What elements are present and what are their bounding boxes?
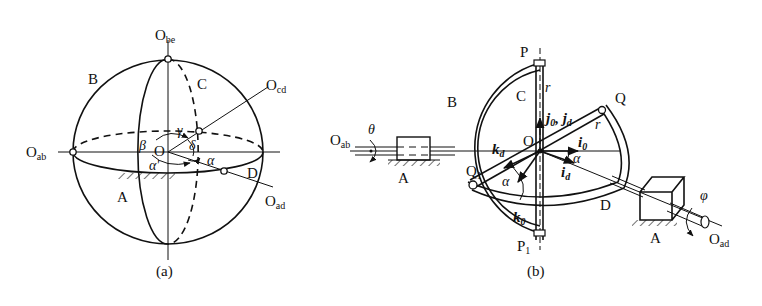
label-body-b-b: B — [447, 94, 457, 110]
label-angle-delta: δ — [189, 138, 196, 153]
ground-hatch — [117, 173, 175, 179]
bearing-a-right — [640, 177, 684, 220]
label-p1: P1 — [517, 238, 530, 256]
label-angle-beta: β — [138, 138, 146, 153]
pin-q1 — [469, 181, 477, 189]
label-id: id — [561, 164, 571, 182]
label-p: P — [520, 44, 528, 60]
pin-q — [599, 107, 606, 114]
label-angle-gamma: γ — [177, 123, 183, 138]
label-oab: Oab — [26, 144, 46, 162]
figure-a: Obe Ocd Oab Oad O B C D A β γ δ α α' (a) — [26, 27, 286, 280]
figure-b: Oab θ A B P P1 C O r j0, jd Q r i0 α id … — [330, 44, 729, 280]
pin-p1 — [534, 230, 545, 236]
label-body-c: C — [197, 76, 207, 92]
label-obe: Obe — [155, 27, 176, 45]
bearing-a-left — [397, 137, 430, 160]
caption-a: (a) — [156, 263, 173, 280]
shaft-oad-axis — [540, 151, 722, 226]
label-body-d-b: D — [600, 197, 611, 213]
label-r-q: r — [595, 117, 601, 132]
label-body-a: A — [117, 189, 128, 205]
label-o: O — [154, 143, 165, 159]
pin-p — [534, 60, 545, 66]
label-body-a-left: A — [398, 170, 409, 186]
ground-hatch-left — [388, 160, 440, 166]
shaft-end-oad — [701, 216, 709, 228]
label-oad: Oad — [265, 193, 285, 211]
label-ocd: Ocd — [266, 77, 286, 95]
joint-obe — [165, 56, 171, 62]
label-body-b: B — [88, 71, 98, 87]
shaft-end-dot — [370, 150, 373, 153]
joint-oad — [221, 168, 227, 174]
caption-b: (b) — [527, 263, 545, 280]
angle-arc-gamma — [156, 133, 188, 140]
center-o — [538, 149, 543, 154]
label-oab-b: Oab — [330, 132, 350, 150]
label-angle-alpha-prime: α' — [149, 158, 160, 173]
label-body-a-right: A — [650, 230, 661, 246]
label-j: j0, jd — [544, 110, 573, 128]
label-q: Q — [615, 90, 626, 106]
label-alpha-left: α — [502, 174, 510, 189]
label-phi: φ — [700, 188, 708, 203]
label-r-top: r — [545, 80, 551, 95]
mechanism-diagram: Obe Ocd Oab Oad O B C D A β γ δ α α' (a) — [0, 0, 762, 306]
label-body-c-b: C — [516, 88, 526, 104]
label-k0: k0 — [513, 209, 526, 227]
label-o-b: O — [523, 133, 534, 149]
label-kd: kd — [492, 141, 506, 159]
label-body-d: D — [247, 165, 258, 181]
label-oad-b: Oad — [709, 231, 729, 249]
label-angle-alpha: α — [207, 153, 215, 168]
label-i0: i0 — [578, 134, 587, 152]
label-theta: θ — [368, 122, 375, 137]
label-alpha-right: α — [573, 151, 581, 166]
ground-hatch-right — [632, 220, 677, 226]
joint-oab — [70, 149, 76, 155]
joint-ocd — [196, 128, 202, 134]
